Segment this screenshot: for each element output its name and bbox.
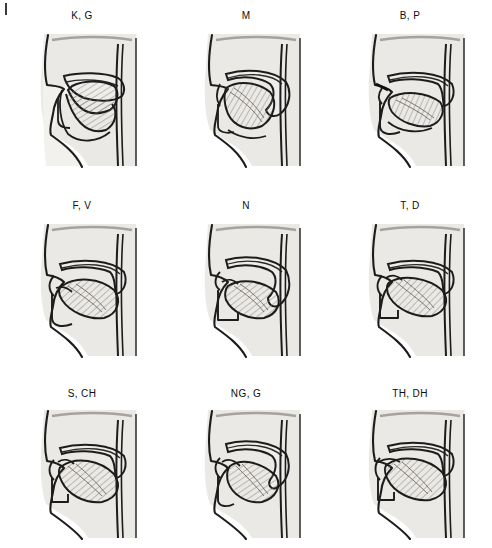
panel-m: M (164, 0, 328, 190)
panel-label-f-v: F, V (73, 200, 92, 214)
panel-b-p: B, P (328, 0, 492, 190)
vocal-tract-drawing-b-p (346, 26, 474, 172)
vocal-tract-drawing-t-d (346, 216, 474, 362)
vocal-tract-drawing-f-v (18, 216, 146, 362)
panel-th-dh: TH, DH (328, 380, 492, 548)
panel-label-th-dh: TH, DH (392, 388, 428, 402)
articulation-diagram-grid: K, G (0, 0, 492, 548)
panel-label-n: N (242, 200, 250, 214)
vocal-tract-drawing-ng-g (182, 404, 310, 544)
vocal-tract-drawing-n (182, 216, 310, 362)
panel-ng-g: NG, G (164, 380, 328, 548)
vocal-tract-drawing-th-dh (346, 404, 474, 544)
panel-n: N (164, 190, 328, 380)
panel-t-d: T, D (328, 190, 492, 380)
vocal-tract-drawing-k-g (18, 26, 146, 172)
vocal-tract-drawing-m (182, 26, 310, 172)
panel-label-t-d: T, D (400, 200, 419, 214)
panel-label-ng-g: NG, G (231, 388, 261, 402)
panel-label-k-g: K, G (71, 10, 93, 24)
panel-label-m: M (242, 10, 251, 24)
vocal-tract-drawing-s-ch (18, 404, 146, 544)
panel-k-g: K, G (0, 0, 164, 190)
panel-label-s-ch: S, CH (68, 388, 97, 402)
panel-label-b-p: B, P (400, 10, 421, 24)
panel-f-v: F, V (0, 190, 164, 380)
panel-s-ch: S, CH (0, 380, 164, 548)
